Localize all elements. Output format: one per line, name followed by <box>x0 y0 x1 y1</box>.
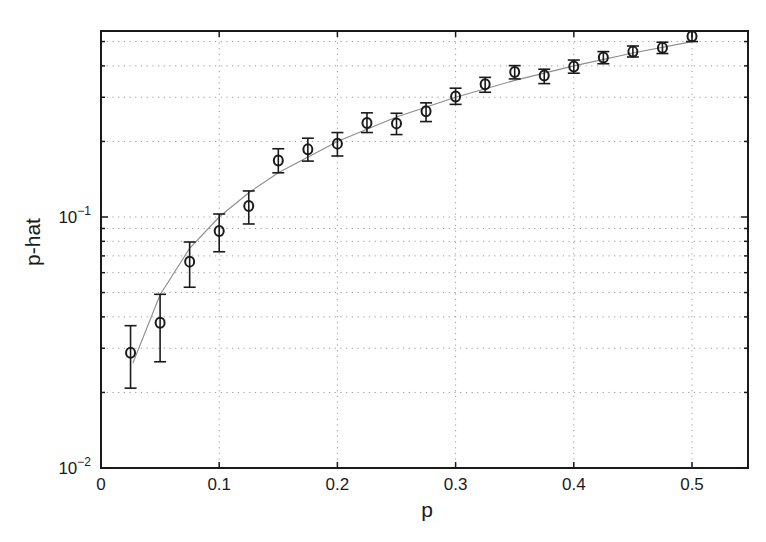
x-tick-label: 0.1 <box>207 475 231 494</box>
data-point <box>391 113 403 134</box>
data-point <box>272 149 284 173</box>
gridlines <box>101 31 748 468</box>
reference-line <box>133 42 692 363</box>
data-point <box>656 42 668 53</box>
x-axis-label: p <box>421 498 433 521</box>
x-tick-label: 0 <box>96 475 105 494</box>
data-point <box>213 214 225 252</box>
x-tick-label: 0.4 <box>562 475 586 494</box>
data-points-with-error-bars <box>125 31 698 388</box>
data-point <box>184 242 196 287</box>
x-tick-label: 0.3 <box>444 475 468 494</box>
y-tick-label: 10−2 <box>58 455 91 478</box>
data-point <box>597 52 609 64</box>
plot-frame <box>101 31 748 468</box>
x-tick-label: 0.2 <box>326 475 350 494</box>
data-point <box>538 69 550 83</box>
y-tick-label: 10−1 <box>58 204 91 227</box>
x-tick-labels: 00.10.20.30.40.5 <box>96 475 704 494</box>
axis-ticks <box>101 31 748 468</box>
x-tick-label: 0.5 <box>680 475 704 494</box>
data-point <box>568 60 580 73</box>
data-point <box>627 46 639 57</box>
data-point <box>450 88 462 104</box>
data-point <box>509 66 521 79</box>
y-tick-labels: 10−210−1 <box>58 204 91 478</box>
chart: 00.10.20.30.40.5 10−210−1 p p-hat <box>0 0 766 542</box>
data-point <box>331 133 343 156</box>
y-axis-label: p-hat <box>21 218 44 266</box>
data-point <box>361 113 373 133</box>
reference-curve <box>133 42 692 363</box>
